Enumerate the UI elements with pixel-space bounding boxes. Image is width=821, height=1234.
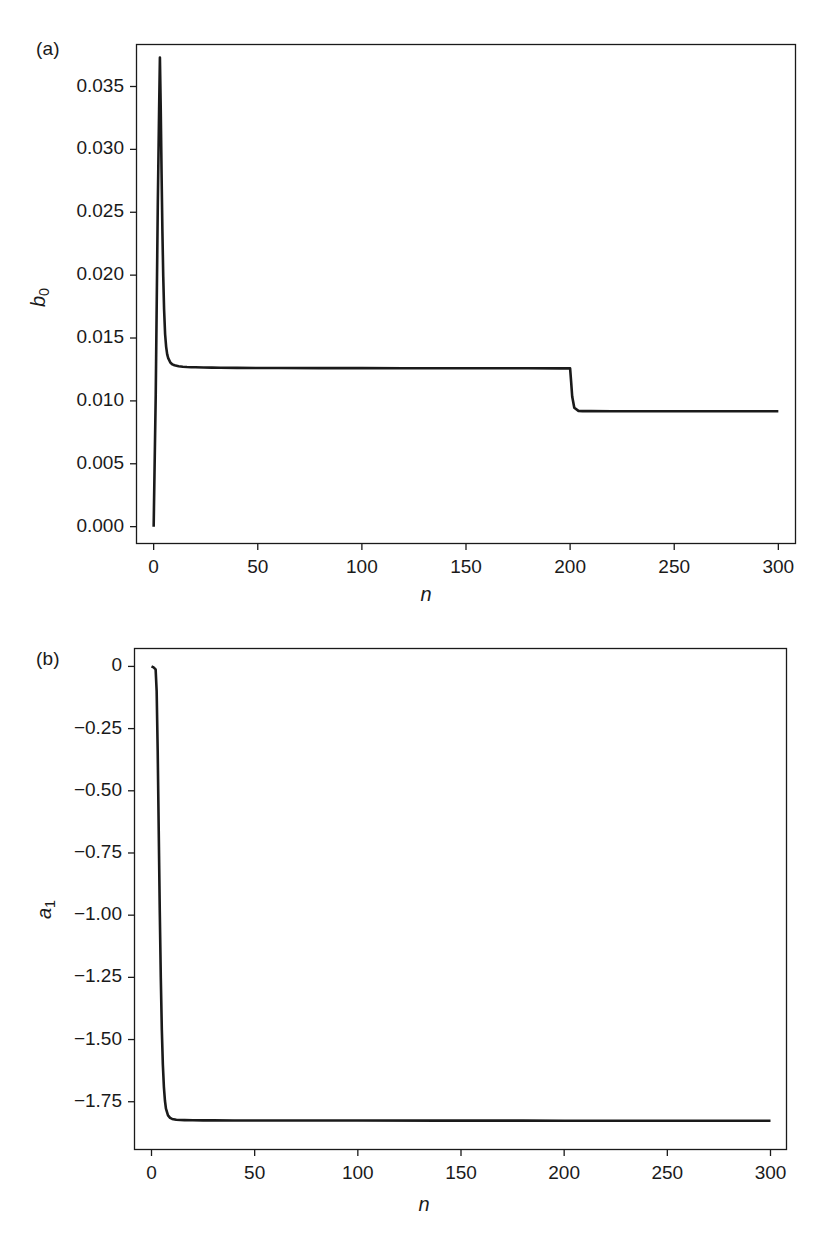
chart-panel-b: (b) a1 n 0−0.25−0.50−0.75−1.00−1.25−1.50… bbox=[0, 617, 821, 1234]
x-tick-label: 300 bbox=[730, 1162, 810, 1184]
figure-container: (a) b0 n 0.0000.0050.0100.0150.0200.0250… bbox=[0, 0, 821, 1234]
y-tick-label: −1.50 bbox=[74, 1028, 122, 1050]
x-tick-label: 200 bbox=[524, 1162, 604, 1184]
x-tick-label: 50 bbox=[215, 1162, 295, 1184]
x-tick-label: 150 bbox=[421, 1162, 501, 1184]
y-tick-label: 0.005 bbox=[76, 452, 124, 474]
y-tick-label: −1.75 bbox=[74, 1090, 122, 1112]
x-tick-label: 250 bbox=[634, 556, 714, 578]
x-tick-label: 250 bbox=[627, 1162, 707, 1184]
y-tick-label: 0.035 bbox=[76, 75, 124, 97]
x-tick-label: 200 bbox=[530, 556, 610, 578]
plot-frame-b bbox=[135, 649, 787, 1150]
x-tick-label: 150 bbox=[426, 556, 506, 578]
y-tick-label: 0 bbox=[111, 654, 122, 676]
y-tick-label: 0.000 bbox=[76, 515, 124, 537]
y-tick-label: −0.25 bbox=[74, 717, 122, 739]
x-tick-label: 100 bbox=[318, 1162, 398, 1184]
plot-area-b bbox=[0, 617, 821, 1234]
y-tick-label: 0.025 bbox=[76, 200, 124, 222]
chart-panel-a: (a) b0 n 0.0000.0050.0100.0150.0200.0250… bbox=[0, 0, 821, 617]
x-tick-label: 0 bbox=[114, 556, 194, 578]
y-tick-label: 0.030 bbox=[76, 137, 124, 159]
y-tick-label: −0.75 bbox=[74, 841, 122, 863]
y-tick-label: −1.00 bbox=[74, 903, 122, 925]
y-tick-label: 0.015 bbox=[76, 326, 124, 348]
y-tick-label: 0.020 bbox=[76, 263, 124, 285]
plot-frame-a bbox=[137, 45, 796, 544]
y-tick-label: −1.25 bbox=[74, 965, 122, 987]
x-tick-label: 100 bbox=[322, 556, 402, 578]
x-tick-label: 50 bbox=[218, 556, 298, 578]
x-tick-label: 300 bbox=[738, 556, 818, 578]
y-tick-label: 0.010 bbox=[76, 389, 124, 411]
x-tick-label: 0 bbox=[112, 1162, 192, 1184]
y-tick-label: −0.50 bbox=[74, 779, 122, 801]
